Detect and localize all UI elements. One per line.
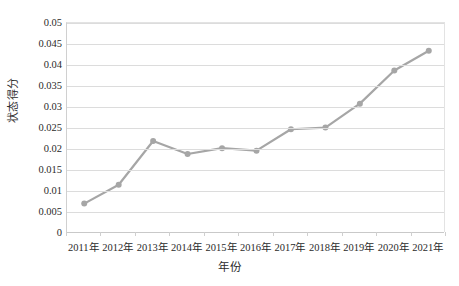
y-axis-tick-label: 0.035 <box>18 80 62 91</box>
plot-area <box>66 22 445 232</box>
gridline <box>67 65 444 66</box>
y-axis-tick-label: 0.005 <box>18 206 62 217</box>
y-axis-tick-label: 0.04 <box>18 59 62 70</box>
gridline <box>67 191 444 192</box>
gridline <box>67 23 444 24</box>
x-axis-tick <box>169 232 170 236</box>
x-axis-tick <box>307 232 308 236</box>
y-axis-tick-label: 0.015 <box>18 164 62 175</box>
x-axis-tick <box>342 232 343 236</box>
x-axis-tick <box>411 232 412 236</box>
x-axis-tick <box>135 232 136 236</box>
x-axis-tick-labels: 2011年2012年2013年2014年2015年2016年2017年2018年… <box>58 239 454 255</box>
data-point-marker <box>150 138 156 144</box>
gridline <box>67 149 444 150</box>
data-point-marker <box>185 151 191 157</box>
x-axis-tick <box>445 232 446 236</box>
data-point-marker <box>357 101 363 107</box>
y-axis-tick-label: 0.045 <box>18 38 62 49</box>
x-axis-title: 年份 <box>0 258 459 274</box>
data-point-marker <box>81 201 87 207</box>
y-axis-tick-label: 0.025 <box>18 122 62 133</box>
gridline <box>67 86 444 87</box>
y-axis-tick-label: 0.01 <box>18 185 62 196</box>
x-axis-tick <box>100 232 101 236</box>
x-axis-tick <box>66 232 67 236</box>
data-point-marker <box>391 67 397 73</box>
x-axis-tick <box>376 232 377 236</box>
x-axis-tick <box>204 232 205 236</box>
x-axis-tick-label: 2021年 <box>405 239 451 254</box>
y-axis-tick-label: 0.05 <box>18 17 62 28</box>
x-axis-tick <box>238 232 239 236</box>
x-axis-ticks <box>66 232 445 237</box>
gridline <box>67 107 444 108</box>
gridline <box>67 128 444 129</box>
y-axis-tick-label: 0.03 <box>18 101 62 112</box>
x-axis-tick <box>273 232 274 236</box>
y-axis-tick-label: 0.02 <box>18 143 62 154</box>
y-axis-tick-label: 0 <box>18 227 62 238</box>
y-axis-tick-labels: 00.0050.010.0150.020.0250.030.0350.040.0… <box>18 22 62 232</box>
data-point-marker <box>426 48 432 54</box>
data-point-marker <box>116 182 122 188</box>
gridline <box>67 170 444 171</box>
gridline <box>67 44 444 45</box>
line-chart: 状态得分 00.0050.010.0150.020.0250.030.0350.… <box>0 0 459 286</box>
gridline <box>67 212 444 213</box>
